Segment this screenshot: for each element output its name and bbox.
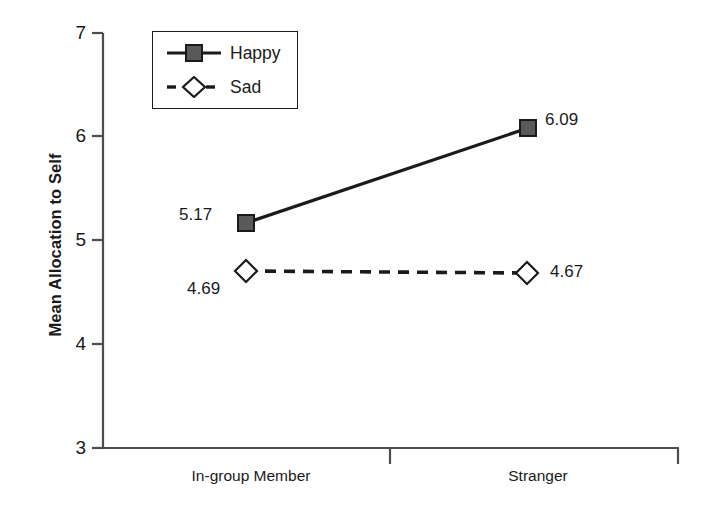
chart-legend: Happy Sad: [152, 31, 298, 109]
marker-happy-stranger: [520, 120, 536, 136]
y-tick-label-5: 5: [52, 229, 86, 251]
chart-figure: Mean Allocation to Self 7 6 5 4 3 In-gro…: [0, 0, 710, 518]
legend-label-happy: Happy: [230, 43, 281, 64]
marker-happy-ingroup: [238, 215, 254, 231]
chart-plot-area: [0, 0, 710, 518]
legend-item-sad: Sad: [165, 74, 261, 100]
filled-square-icon: [165, 42, 223, 64]
marker-sad-stranger: [516, 262, 538, 284]
value-label-sad-ingroup: 4.69: [187, 279, 220, 299]
value-label-happy-ingroup: 5.17: [179, 205, 212, 225]
y-tick-label-4: 4: [52, 333, 86, 355]
series-line-sad: [246, 271, 527, 273]
x-tick-label-ingroup: In-group Member: [151, 467, 351, 485]
legend-label-sad: Sad: [230, 77, 261, 98]
y-tick-label-3: 3: [52, 437, 86, 459]
x-axis-ticks: [390, 448, 678, 464]
value-label-happy-stranger: 6.09: [545, 110, 578, 130]
legend-item-happy: Happy: [165, 40, 281, 66]
y-tick-label-7: 7: [52, 22, 86, 44]
y-axis-ticks: [92, 33, 103, 448]
marker-sad-ingroup: [235, 260, 257, 282]
open-diamond-icon: [165, 76, 223, 98]
x-tick-label-stranger: Stranger: [458, 467, 618, 485]
series-line-happy: [246, 128, 528, 223]
y-tick-label-6: 6: [52, 125, 86, 147]
value-label-sad-stranger: 4.67: [550, 262, 583, 282]
